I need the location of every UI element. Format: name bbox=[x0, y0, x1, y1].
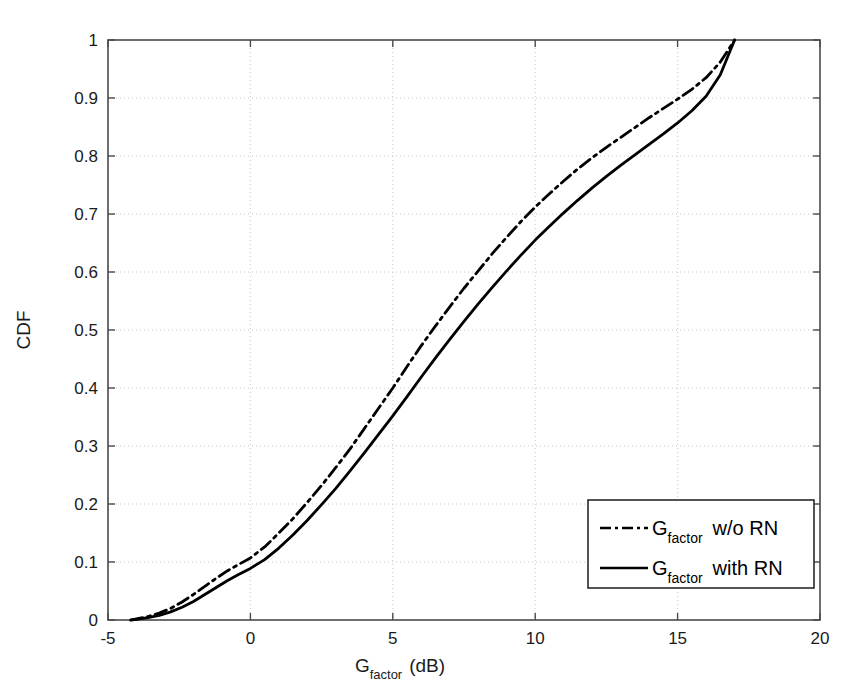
x-axis-title-subscript: factor bbox=[370, 667, 403, 682]
x-tick-label: 5 bbox=[388, 629, 397, 648]
y-tick-label: 0 bbox=[89, 611, 98, 630]
x-axis-title-main: G bbox=[355, 655, 370, 676]
y-axis-title-label: CDF bbox=[13, 310, 34, 349]
legend-label-0-subscript: factor bbox=[668, 530, 703, 546]
y-tick-label: 0.2 bbox=[74, 495, 98, 514]
x-tick-label: 15 bbox=[668, 629, 687, 648]
cdf-chart-figure: -505101520 00.10.20.30.40.50.60.70.80.91… bbox=[0, 0, 861, 699]
y-tick-label: 0.6 bbox=[74, 263, 98, 282]
y-tick-label: 0.3 bbox=[74, 437, 98, 456]
y-tick-label: 0.1 bbox=[74, 553, 98, 572]
x-tick-label: 20 bbox=[811, 629, 830, 648]
y-tick-label: 0.4 bbox=[74, 379, 98, 398]
x-tick-label: -5 bbox=[100, 629, 115, 648]
x-tick-label: 10 bbox=[526, 629, 545, 648]
chart-svg: -505101520 00.10.20.30.40.50.60.70.80.91… bbox=[0, 0, 861, 699]
legend-label-0-main: G bbox=[652, 517, 668, 539]
y-tick-label: 0.8 bbox=[74, 147, 98, 166]
legend-label-0-tail: w/o RN bbox=[712, 517, 779, 539]
y-tick-label: 0.7 bbox=[74, 205, 98, 224]
chart-background bbox=[0, 0, 861, 699]
y-axis-title: CDF bbox=[13, 310, 34, 349]
legend-label-1-subscript: factor bbox=[668, 570, 703, 586]
y-tick-label: 0.5 bbox=[74, 321, 98, 340]
chart-legend[interactable]: Gfactorw/o RN Gfactorwith RN bbox=[588, 500, 814, 588]
y-tick-label: 0.9 bbox=[74, 89, 98, 108]
y-tick-label: 1 bbox=[89, 31, 98, 50]
legend-label-1-main: G bbox=[652, 557, 668, 579]
x-tick-label: 0 bbox=[246, 629, 255, 648]
legend-label-1-tail: with RN bbox=[712, 557, 783, 579]
x-axis-title-unit: (dB) bbox=[409, 655, 445, 676]
